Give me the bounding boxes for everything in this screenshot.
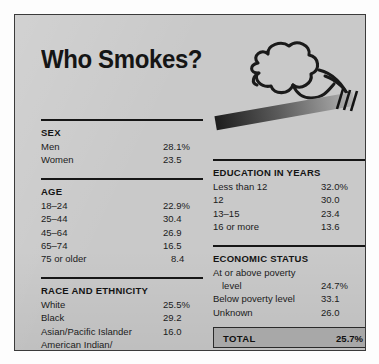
row-value: 23.5	[163, 153, 182, 166]
row-label: 12	[213, 193, 224, 206]
row-value: 8.4	[171, 252, 184, 265]
data-row: 13–15 23.4	[213, 207, 366, 220]
data-row: Unknown 26.0	[213, 306, 366, 319]
row-value: 26.0	[321, 306, 340, 319]
row-value: 30.0	[321, 193, 340, 206]
row-value: 16.5	[163, 239, 182, 252]
row-value: 13.6	[321, 220, 340, 233]
data-row: 12 30.0	[213, 193, 366, 206]
row-label: 25–44	[41, 212, 67, 225]
data-row: 75 or older 8.4	[41, 252, 203, 265]
divider-rule	[41, 119, 203, 121]
row-label: Black	[41, 311, 64, 324]
row-value: 26.9	[163, 226, 182, 239]
row-label: 75 or older	[41, 252, 86, 265]
row-value: 25.5%	[163, 298, 190, 311]
data-row: level 24.7%	[213, 279, 366, 292]
section-heading-sex: SEX	[41, 127, 203, 138]
row-value: 23.4	[321, 207, 340, 220]
section-heading-age: AGE	[41, 186, 203, 197]
data-row: Asian/Pacific Islander 16.0	[41, 325, 203, 338]
data-row: White 25.5%	[41, 298, 203, 311]
row-value: 24.7%	[321, 279, 348, 292]
row-label: 65–74	[41, 239, 67, 252]
total-bar: TOTAL 25.7%	[213, 327, 366, 348]
divider-rule	[41, 277, 203, 279]
data-row: 18–24 22.9%	[41, 199, 203, 212]
data-row: Below poverty level 33.1	[213, 292, 366, 305]
row-label: Less than 12	[213, 180, 267, 193]
row-label: 16 or more	[213, 220, 259, 233]
row-label: level	[213, 279, 242, 292]
info-card: Who Smokes?	[14, 14, 366, 351]
row-label: Asian/Pacific Islander	[41, 325, 132, 338]
data-row: 25–44 30.4	[41, 212, 203, 225]
section-heading-education-in-years: EDUCATION IN YEARS	[213, 167, 366, 178]
data-row: American Indian/	[41, 338, 203, 351]
row-label: Women	[41, 153, 74, 166]
data-row: Less than 12 32.0%	[213, 180, 366, 193]
row-label: Men	[41, 140, 59, 153]
row-label: White	[41, 298, 65, 311]
row-label: Below poverty level	[213, 292, 295, 305]
data-row: 16 or more 13.6	[213, 220, 366, 233]
row-value: 29.2	[163, 311, 182, 324]
row-label: 45–64	[41, 226, 67, 239]
total-value: 25.7%	[336, 333, 363, 344]
row-label: American Indian/	[41, 338, 112, 351]
left-column: SEX Men 28.1% Women 23.5 AGE 18–24 22.9%…	[41, 119, 203, 351]
data-row: 65–74 16.5	[41, 239, 203, 252]
data-row: At or above poverty	[213, 266, 366, 279]
divider-rule	[213, 159, 366, 161]
row-value: 22.9%	[163, 199, 190, 212]
divider-rule	[41, 178, 203, 180]
row-label: Unknown	[213, 306, 253, 319]
divider-rule	[213, 245, 366, 247]
row-value: 30.4	[163, 212, 182, 225]
row-value: 28.1%	[163, 140, 190, 153]
right-column: EDUCATION IN YEARS Less than 12 32.0% 12…	[213, 159, 366, 319]
section-heading-race-and-ethnicity: RACE AND ETHNICITY	[41, 285, 203, 296]
data-row: Men 28.1%	[41, 140, 203, 153]
data-row: Black 29.2	[41, 311, 203, 324]
row-label: 18–24	[41, 199, 67, 212]
page-title: Who Smokes?	[41, 45, 202, 74]
data-row: Women 23.5	[41, 153, 203, 166]
cigarette-smoke-illustration	[201, 29, 366, 145]
data-row: 45–64 26.9	[41, 226, 203, 239]
row-value: 32.0%	[321, 180, 348, 193]
row-label: 13–15	[213, 207, 239, 220]
row-value: 33.1	[321, 292, 340, 305]
total-label: TOTAL	[223, 333, 256, 344]
poster: Who Smokes?	[0, 0, 379, 364]
section-heading-economic-status: ECONOMIC STATUS	[213, 253, 366, 264]
row-value: 16.0	[163, 325, 182, 338]
row-label: At or above poverty	[213, 266, 295, 279]
